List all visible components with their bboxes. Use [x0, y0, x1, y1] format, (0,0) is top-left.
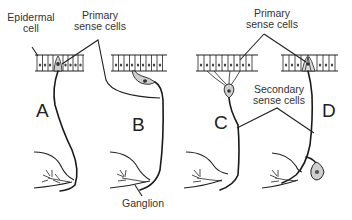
- panel-letter-b: B: [132, 114, 145, 136]
- label-primary-sense-cells-left: Primary sense cells: [68, 10, 132, 32]
- epidermis-strip-b: [111, 55, 167, 84]
- panel-letter-d: D: [322, 100, 336, 122]
- label-secondary-sense-cells: Secondary sense cells: [245, 84, 313, 106]
- sense-cells-diagram: Epidermal cell Primary sense cells Prima…: [0, 0, 352, 220]
- epidermis-strip-d: [281, 55, 338, 71]
- label-epidermal-cell: Epidermal cell: [2, 12, 60, 34]
- label-ganglion: Ganglion: [115, 198, 171, 209]
- panel-letter-a: A: [36, 100, 49, 122]
- epidermis-strip-a: [35, 55, 84, 71]
- label-primary-sense-cells-right: Primary sense cells: [240, 8, 304, 30]
- panel-letter-c: C: [214, 112, 228, 134]
